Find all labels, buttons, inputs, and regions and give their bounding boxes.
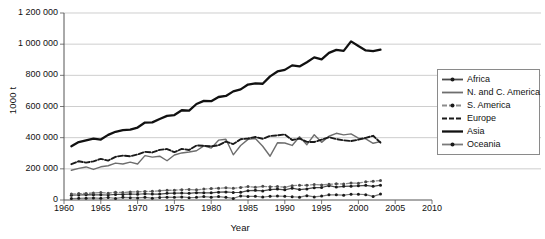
data-point — [283, 186, 286, 189]
data-point — [379, 179, 382, 182]
data-point — [77, 197, 80, 200]
data-point — [114, 197, 117, 200]
legend-swatch-icon — [441, 126, 464, 137]
data-point — [320, 195, 323, 198]
data-point — [342, 194, 345, 197]
data-point — [210, 191, 213, 194]
data-point — [143, 196, 146, 199]
data-point — [92, 191, 95, 194]
data-point — [121, 196, 124, 199]
data-point — [173, 189, 176, 192]
data-point — [269, 195, 272, 198]
legend-item-n-and-c-america[interactable]: N. and C. America — [441, 86, 536, 99]
data-point — [173, 196, 176, 199]
data-point — [99, 191, 102, 194]
data-point — [188, 196, 191, 199]
legend-swatch-icon — [441, 87, 464, 98]
legend-label: Africa — [467, 74, 490, 85]
data-point — [298, 196, 301, 199]
data-point — [327, 183, 330, 186]
data-point — [276, 185, 279, 188]
legend-swatch-icon — [441, 139, 464, 150]
data-point — [70, 197, 73, 200]
data-point — [254, 186, 257, 189]
data-point — [188, 188, 191, 191]
data-point — [166, 189, 169, 192]
data-point — [217, 191, 220, 194]
data-point — [320, 184, 323, 187]
data-point — [305, 187, 308, 190]
data-point — [313, 186, 316, 189]
legend-swatch-icon — [441, 113, 464, 124]
data-point — [247, 195, 250, 198]
legend-item-europe[interactable]: Europe — [441, 112, 536, 125]
data-point — [121, 191, 124, 194]
data-point — [350, 185, 353, 188]
data-point — [342, 183, 345, 186]
data-point — [357, 182, 360, 185]
data-point — [283, 188, 286, 191]
data-point — [92, 196, 95, 199]
data-point — [247, 185, 250, 188]
data-point — [305, 194, 308, 197]
data-point — [151, 193, 154, 196]
data-point — [372, 180, 375, 183]
data-point — [261, 189, 264, 192]
legend-label: Europe — [467, 113, 496, 124]
data-point — [350, 193, 353, 196]
data-point — [210, 196, 213, 199]
data-point — [166, 196, 169, 199]
data-point — [269, 188, 272, 191]
data-point — [364, 180, 367, 183]
data-point — [364, 184, 367, 187]
data-point — [99, 197, 102, 200]
data-point — [276, 188, 279, 191]
data-point — [202, 188, 205, 191]
data-point — [77, 192, 80, 195]
data-point — [202, 195, 205, 198]
data-point — [202, 191, 205, 194]
legend-item-africa[interactable]: Africa — [441, 73, 536, 86]
data-point — [350, 182, 353, 185]
data-point — [151, 190, 154, 193]
data-point — [313, 195, 316, 198]
data-point — [298, 184, 301, 187]
data-point — [232, 197, 235, 200]
data-point — [180, 191, 183, 194]
data-point — [239, 191, 242, 194]
data-point — [372, 185, 375, 188]
chart-container: 1000 t Year 0200 000400 000600 000800 00… — [0, 0, 545, 239]
data-point — [261, 185, 264, 188]
data-point — [151, 197, 154, 200]
data-point — [107, 196, 110, 199]
data-point — [188, 192, 191, 195]
data-point — [379, 193, 382, 196]
legend-item-asia[interactable]: Asia — [441, 125, 536, 138]
legend-item-oceania[interactable]: Oceania — [441, 138, 536, 151]
data-point — [158, 196, 161, 199]
data-point — [224, 190, 227, 193]
legend-item-s-america[interactable]: S. America — [441, 99, 536, 112]
data-point — [276, 195, 279, 198]
data-point — [195, 191, 198, 194]
data-point — [195, 188, 198, 191]
data-point — [291, 195, 294, 198]
data-point — [291, 184, 294, 187]
data-point — [180, 188, 183, 191]
data-point — [173, 192, 176, 195]
data-point — [85, 192, 88, 195]
data-point — [379, 184, 382, 187]
data-point — [158, 193, 161, 196]
data-point — [217, 187, 220, 190]
data-point — [129, 190, 132, 193]
data-point — [85, 197, 88, 200]
data-point — [239, 186, 242, 189]
data-point — [224, 186, 227, 189]
data-point — [136, 196, 139, 199]
data-point — [357, 184, 360, 187]
legend-swatch-icon — [441, 74, 464, 85]
data-point — [305, 184, 308, 187]
series-line-asia — [71, 41, 380, 146]
legend-label: Asia — [467, 126, 485, 137]
data-point — [269, 185, 272, 188]
